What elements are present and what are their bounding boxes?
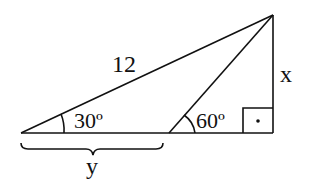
angle-arc-30 <box>61 114 64 133</box>
angle-60-label: 60º <box>196 108 225 133</box>
angle-arc-60 <box>184 115 195 133</box>
vertical-side-label: x <box>280 61 292 87</box>
hypotenuse-line <box>21 15 273 133</box>
angle-30-label: 30º <box>74 108 103 133</box>
triangle-diagram: 12 x 30º 60º y <box>0 0 313 184</box>
right-angle-dot <box>256 119 260 123</box>
hypotenuse-label: 12 <box>112 51 136 77</box>
base-segment-label: y <box>86 153 98 179</box>
